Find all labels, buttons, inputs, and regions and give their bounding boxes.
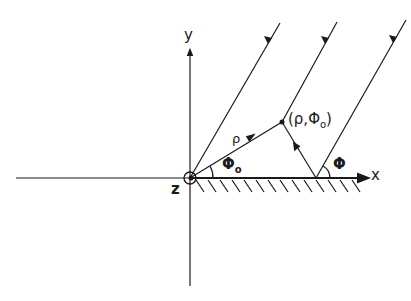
z-axis-label: z bbox=[171, 182, 180, 197]
point-label-close: ) bbox=[326, 110, 332, 128]
incident-arrow-icons bbox=[264, 35, 397, 44]
diagram-canvas bbox=[0, 0, 411, 301]
phi0-angle-arc bbox=[210, 166, 213, 178]
point-label-open: (ρ,Φ bbox=[288, 110, 320, 128]
y-axis-label: y bbox=[184, 28, 193, 43]
incident-ray-3 bbox=[316, 20, 406, 178]
incident-ray-1 bbox=[190, 23, 280, 178]
rho-label: ρ bbox=[232, 132, 240, 145]
phi-angle-arc bbox=[323, 166, 330, 178]
conducting-half-plane-hatching bbox=[196, 180, 360, 192]
x-axis-label: x bbox=[371, 168, 380, 183]
observation-point bbox=[280, 120, 285, 125]
phi0-angle-label: Φo bbox=[222, 157, 242, 175]
point-coordinates-label: (ρ,Φo) bbox=[288, 112, 332, 130]
incident-ray-2 bbox=[282, 22, 337, 122]
reflected-ray bbox=[282, 122, 316, 178]
phi-angle-label: Φ bbox=[333, 157, 346, 172]
